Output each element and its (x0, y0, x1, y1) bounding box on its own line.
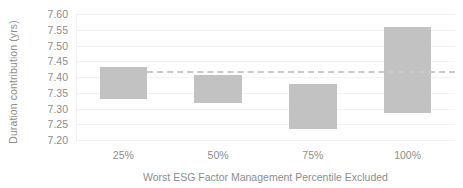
y-axis-tick-label: 7.55 (48, 24, 68, 36)
plot-area (76, 14, 455, 140)
y-axis-tick-label: 7.40 (48, 71, 68, 83)
x-axis-tick-labels: 25%50%75%100% (76, 148, 455, 162)
x-axis-tick-label: 50% (171, 148, 266, 162)
y-axis-tick-label: 7.30 (48, 103, 68, 115)
x-axis-tick-label: 25% (76, 148, 171, 162)
gridline (76, 140, 455, 141)
gridline (76, 14, 455, 15)
y-axis-tick-label: 7.45 (48, 55, 68, 67)
x-axis-tick-label: 75% (266, 148, 361, 162)
y-axis-tick-labels: 7.607.557.507.457.407.357.307.257.20 (26, 14, 72, 140)
y-axis-tick-label: 7.50 (48, 40, 68, 52)
y-axis-tick-label: 7.20 (48, 134, 68, 146)
y-axis-tick-label: 7.60 (48, 8, 68, 20)
chart-container: Duration contribution (yrs) 7.607.557.50… (0, 0, 463, 188)
x-axis-title: Worst ESG Factor Management Percentile E… (76, 170, 455, 184)
bar (194, 75, 241, 102)
x-axis-tick-label: 100% (360, 148, 455, 162)
y-axis-tick-label: 7.35 (48, 87, 68, 99)
gridline (76, 124, 455, 125)
bar (289, 84, 336, 129)
baseline-reference-line (147, 71, 455, 73)
bar (100, 67, 147, 99)
y-axis-title: Duration contribution (yrs) (4, 12, 22, 152)
y-axis-tick-label: 7.25 (48, 118, 68, 130)
